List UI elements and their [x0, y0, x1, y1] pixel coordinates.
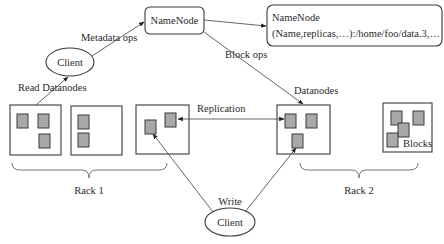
block [38, 114, 49, 128]
metadata-node: NameNode (Name,replicas,…):/home/foo/dat… [267, 5, 442, 46]
blocks-label: Blocks [403, 138, 432, 149]
block [78, 133, 89, 147]
block [39, 134, 50, 148]
rack-1-label: Rack 1 [74, 185, 103, 196]
block [292, 134, 303, 148]
namenode-node: NameNode [145, 7, 204, 34]
write-arrow-rack2 [245, 148, 296, 212]
datanode-5: Blocks [383, 103, 432, 152]
client-bottom-label: Client [217, 217, 243, 228]
block [165, 113, 176, 127]
datanode-1 [10, 105, 61, 155]
rack-2-brace [300, 163, 418, 178]
replication-label: Replication [197, 103, 246, 114]
rack-2-label: Rack 2 [344, 185, 373, 196]
block [17, 114, 28, 128]
rack-1-brace [12, 163, 167, 178]
read-datanodes-label: Read Datanodes [18, 82, 87, 93]
metadata-title: NameNode [272, 12, 320, 23]
namenode-label: NameNode [151, 15, 199, 26]
block [413, 111, 424, 125]
hdfs-architecture-diagram: NameNode NameNode (Name,replicas,…):/hom… [0, 0, 444, 244]
block [387, 133, 398, 147]
metadata-line: (Name,replicas,…):/home/foo/data.3,… [272, 28, 440, 40]
client-top-node: Client [46, 48, 94, 76]
client-top-label: Client [57, 57, 83, 68]
block [398, 123, 409, 137]
block [285, 114, 296, 128]
block [306, 114, 317, 128]
namenode-to-metadata-arrow [204, 20, 266, 26]
write-label: Write [218, 196, 242, 207]
datanode-2 [71, 106, 122, 155]
block [78, 115, 89, 129]
block-ops-label: Block ops [225, 49, 267, 60]
client-bottom-node: Client [205, 208, 255, 236]
datanode-4 [277, 105, 330, 154]
metadata-ops-label: Metadata ops [81, 32, 137, 43]
block [145, 120, 156, 134]
datanodes-label: Datanodes [294, 85, 338, 96]
